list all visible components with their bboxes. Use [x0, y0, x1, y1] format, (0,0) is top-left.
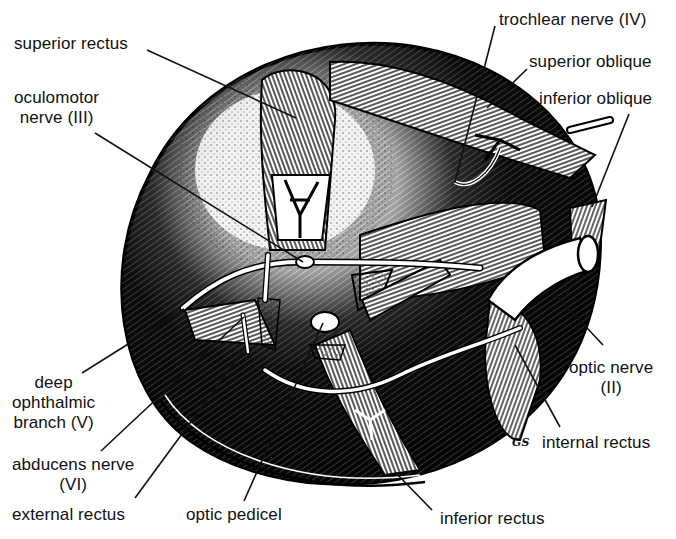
label-abducens-line2: (VI) [12, 475, 134, 495]
label-optic-nerve-line1: optic nerve [569, 358, 653, 378]
label-oculomotor-line1: oculomotor [14, 88, 99, 108]
label-internal-rectus: internal rectus [542, 433, 650, 453]
label-oculomotor-line2: nerve (III) [14, 108, 99, 128]
label-deep-ophthalmic-line3: branch (V) [12, 413, 95, 433]
label-superior-oblique: superior oblique [529, 52, 652, 72]
label-superior-rectus: superior rectus [14, 34, 128, 54]
label-optic-nerve-line2: (II) [569, 378, 653, 398]
label-inferior-oblique: inferior oblique [539, 89, 652, 109]
label-inferior-rectus: inferior rectus [440, 509, 544, 529]
label-abducens-nerve: abducens nerve (VI) [12, 455, 134, 495]
label-deep-ophthalmic-line2: ophthalmic [12, 393, 95, 413]
label-abducens-line1: abducens nerve [12, 455, 134, 475]
eye-muscle-diagram: superior rectus oculomotor nerve (III) t… [0, 0, 676, 539]
leader-inferior-rectus [395, 472, 432, 510]
label-optic-nerve: optic nerve (II) [569, 358, 653, 398]
label-deep-ophthalmic-line1: deep [12, 373, 95, 393]
label-deep-ophthalmic-branch: deep ophthalmic branch (V) [12, 373, 95, 433]
artist-signature: GS [512, 436, 529, 449]
label-oculomotor-nerve: oculomotor nerve (III) [14, 88, 99, 128]
label-optic-pedicel: optic pedicel [186, 505, 282, 525]
superior-rectus-muscle [261, 70, 336, 250]
leader-inferior-oblique [592, 114, 629, 207]
label-external-rectus: external rectus [12, 505, 125, 525]
label-trochlear-nerve: trochlear nerve (IV) [499, 10, 647, 30]
